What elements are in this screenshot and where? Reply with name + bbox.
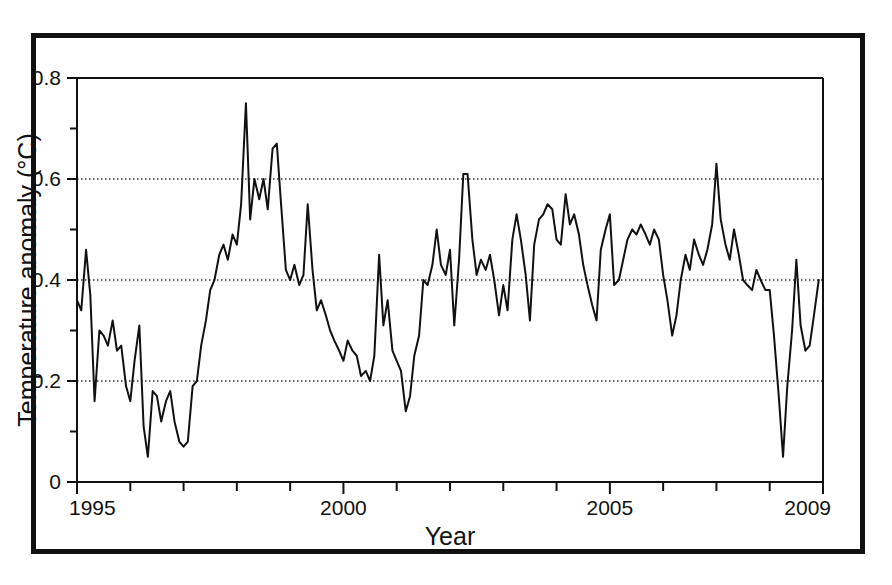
x-axis-ticks bbox=[77, 482, 823, 494]
x-axis-title: Year bbox=[425, 522, 476, 550]
y-tick-label: 0.8 bbox=[32, 66, 61, 89]
y-tick-label: 0 bbox=[49, 470, 61, 493]
y-axis-ticks bbox=[67, 78, 77, 482]
x-tick-label: 2005 bbox=[586, 496, 633, 519]
x-axis-tick-labels: 1995200020052009 bbox=[69, 496, 831, 519]
y-axis-title: Temperature anomaly (°C) bbox=[13, 133, 41, 426]
figure-container: 00.20.40.60.8 1995200020052009 Year Temp… bbox=[0, 0, 892, 585]
x-tick-label: 2000 bbox=[320, 496, 367, 519]
x-tick-label: 1995 bbox=[69, 496, 116, 519]
temperature-anomaly-line-chart: 00.20.40.60.8 1995200020052009 Year Temp… bbox=[0, 0, 892, 585]
x-tick-label: 2009 bbox=[784, 496, 831, 519]
